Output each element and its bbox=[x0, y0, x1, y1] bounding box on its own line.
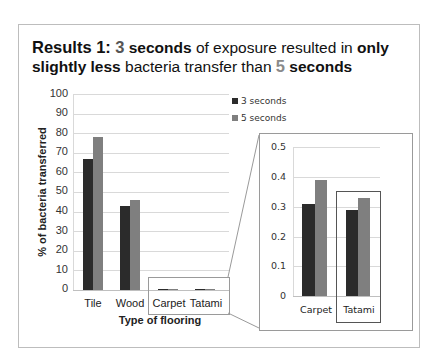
inset-gridline bbox=[293, 147, 380, 148]
inset-bar-carpet-3s bbox=[302, 204, 315, 296]
inset-y-tick: 0.5 bbox=[262, 141, 286, 152]
inset-x-tick-carpet: Carpet bbox=[298, 304, 334, 315]
inset-bar-carpet-5s bbox=[315, 180, 327, 296]
inset-gridline bbox=[293, 177, 380, 178]
tatami-highlight-box bbox=[336, 191, 381, 323]
inset-y-axis bbox=[293, 147, 294, 296]
inset-y-tick: 0.4 bbox=[262, 171, 286, 182]
inset-y-tick: 0.2 bbox=[262, 231, 286, 242]
inset-y-tick: 0.1 bbox=[262, 260, 286, 271]
inset-y-tick: 0.3 bbox=[262, 201, 286, 212]
inset-y-tick: 0 bbox=[262, 290, 286, 301]
